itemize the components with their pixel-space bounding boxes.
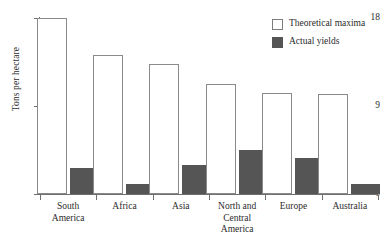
x-category-label: Africa xyxy=(96,201,152,213)
legend-item: Theoretical maxima xyxy=(272,18,376,30)
bar-chart: 0918 Tons per hectare SouthAmericaAfrica… xyxy=(0,0,380,245)
bar-theoretical-maxima xyxy=(318,94,348,194)
x-category-label-line: Asia xyxy=(153,201,209,213)
x-category-label-line: America xyxy=(40,213,96,225)
x-category-label-line: Central xyxy=(209,213,265,225)
x-group-tick xyxy=(209,195,210,200)
x-category-label-line: South xyxy=(40,201,96,213)
bar-actual-yields xyxy=(351,184,380,194)
x-category-label-line: Africa xyxy=(96,201,152,213)
x-category-label: Australia xyxy=(322,201,378,213)
legend-label: Theoretical maxima xyxy=(289,18,365,29)
legend-swatch-theoretical xyxy=(272,19,283,30)
bar-theoretical-maxima xyxy=(37,18,67,194)
x-group-tick xyxy=(96,195,97,200)
bar-theoretical-maxima xyxy=(93,55,123,194)
x-group-tick xyxy=(322,195,323,200)
x-group-tick xyxy=(40,195,41,200)
x-group-tick xyxy=(265,195,266,200)
x-category-label: North andCentralAmerica xyxy=(209,201,265,236)
x-category-label: Europe xyxy=(265,201,321,213)
x-group-tick xyxy=(153,195,154,200)
x-category-label-line: Australia xyxy=(322,201,378,213)
chart-legend: Theoretical maximaActual yields xyxy=(272,18,376,54)
legend-swatch-actual xyxy=(272,37,283,48)
x-category-label: SouthAmerica xyxy=(40,201,96,224)
bar-theoretical-maxima xyxy=(206,84,236,194)
x-category-label: Asia xyxy=(153,201,209,213)
x-category-label-line: North and xyxy=(209,201,265,213)
x-category-label-line: America xyxy=(209,224,265,236)
legend-item: Actual yields xyxy=(272,36,376,48)
bar-theoretical-maxima xyxy=(149,64,179,194)
legend-label: Actual yields xyxy=(289,36,339,47)
x-group-tick xyxy=(378,195,379,200)
y-axis-title: Tons per hectare xyxy=(11,31,21,127)
bar-theoretical-maxima xyxy=(262,93,292,194)
x-category-label-line: Europe xyxy=(265,201,321,213)
